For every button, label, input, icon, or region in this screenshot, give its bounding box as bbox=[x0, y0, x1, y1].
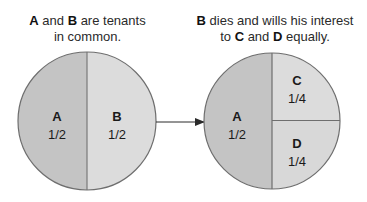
segment-a-name: A bbox=[232, 109, 242, 124]
left-pie: A 1/2 B 1/2 bbox=[18, 52, 156, 190]
segment-d-name: D bbox=[292, 136, 301, 151]
segment-c bbox=[272, 53, 340, 121]
diagram-canvas: A 1/2 B 1/2 A 1/2 C 1/4 D 1/4 bbox=[0, 0, 367, 202]
segment-c-share: 1/4 bbox=[288, 91, 306, 106]
segment-b-share: 1/2 bbox=[108, 127, 126, 142]
segment-b-name: B bbox=[112, 109, 121, 124]
segment-a-name: A bbox=[52, 109, 62, 124]
right-pie: A 1/2 C 1/4 D 1/4 bbox=[204, 53, 340, 189]
segment-a-share: 1/2 bbox=[228, 127, 246, 142]
segment-c-name: C bbox=[292, 73, 302, 88]
segment-d-share: 1/4 bbox=[288, 154, 306, 169]
segment-a-share: 1/2 bbox=[48, 127, 66, 142]
